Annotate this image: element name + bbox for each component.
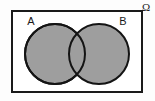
venn-diagram-svg: A B Ω — [0, 0, 155, 101]
set-b-circle — [69, 24, 129, 84]
set-a-label: A — [27, 15, 35, 27]
omega-symbol: Ω — [142, 1, 150, 13]
set-b-label: B — [119, 15, 126, 27]
venn-diagram-figure: A B Ω — [0, 0, 155, 101]
